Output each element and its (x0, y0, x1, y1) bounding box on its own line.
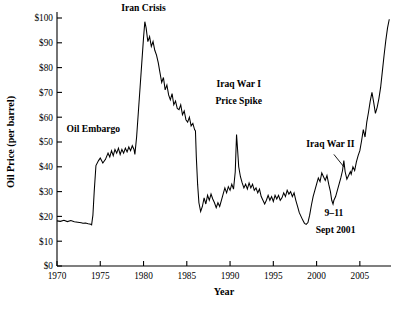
y-tick-label: $70 (39, 88, 53, 98)
y-tick-label: $40 (39, 162, 53, 172)
annotation-nine-eleven-line2: Sept 2001 (316, 224, 356, 235)
x-axis-title: Year (214, 286, 235, 297)
x-tick-label: 1995 (264, 271, 283, 281)
y-tick-label: $60 (39, 113, 53, 123)
oil-price-chart: $0$10$20$30$40$50$60$70$80$90$100 197019… (0, 0, 411, 315)
y-tick-label: $90 (39, 38, 53, 48)
annotation-iraq-war-2: Iraq War II (306, 138, 354, 149)
annotation-iran-crisis: Iran Crisis (121, 2, 166, 13)
y-tick-label: $80 (39, 63, 53, 73)
y-tick-label: $50 (39, 137, 53, 147)
y-axis-title: Oil Price (per barrel) (5, 96, 17, 188)
x-tick-label: 1980 (134, 271, 153, 281)
x-tick-label: 2005 (351, 271, 370, 281)
y-tick-label: $100 (34, 13, 53, 23)
x-tick-label: 1990 (221, 271, 240, 281)
x-tick-label: 1975 (91, 271, 110, 281)
x-tick-label: 1985 (177, 271, 196, 281)
chart-background (0, 0, 411, 315)
y-tick-label: $0 (44, 261, 54, 271)
annotation-oil-embargo: Oil Embargo (67, 123, 121, 134)
y-tick-label: $10 (39, 237, 53, 247)
y-tick-label: $20 (39, 212, 53, 222)
annotation-iraq-war-1-line2: Price Spike (215, 95, 262, 106)
x-tick-label: 2000 (307, 271, 326, 281)
x-tick-label: 1970 (48, 271, 67, 281)
y-tick-label: $30 (39, 187, 53, 197)
annotation-iraq-war-1-line1: Iraq War I (216, 78, 261, 89)
annotation-nine-eleven-line1: 9–11 (325, 207, 344, 218)
